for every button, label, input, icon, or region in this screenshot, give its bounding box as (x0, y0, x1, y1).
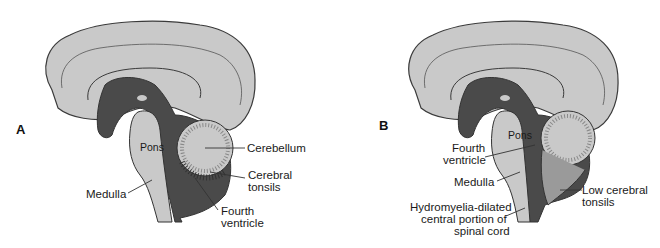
panel-label-b: B (379, 118, 388, 133)
label-medulla: Medulla (454, 176, 494, 188)
label-tonsils-1: Cerebral (248, 169, 292, 181)
label-fourth-1: Fourth (452, 142, 485, 154)
label-medulla: Medulla (86, 188, 126, 200)
label-hydromyelia-2: central portion of (421, 213, 507, 225)
label-tonsils-2: tonsils (248, 181, 281, 193)
label-fourth-2: ventricle (221, 217, 264, 229)
label-fourth-1: Fourth (221, 205, 254, 217)
label-pons: Pons (140, 141, 164, 153)
panel-b-chiari: B Pons Fourth ventricle Medulla Low cere… (330, 0, 660, 248)
label-cerebellum: Cerebellum (247, 142, 306, 154)
label-low-tonsils-1: Low cerebral (582, 184, 648, 196)
brain-diagram-a (0, 0, 330, 248)
label-fourth-2: ventricle (443, 154, 486, 166)
panel-a-normal-brain: A Pons Medulla Cerebellum Cerebral tonsi… (0, 0, 330, 248)
label-low-tonsils-2: tonsils (582, 196, 615, 208)
label-hydromyelia-3: spinal cord (454, 225, 510, 237)
panel-label-a: A (16, 122, 25, 137)
label-hydromyelia-1: Hydromyelia-dilated (410, 201, 512, 213)
label-pons: Pons (508, 129, 532, 141)
